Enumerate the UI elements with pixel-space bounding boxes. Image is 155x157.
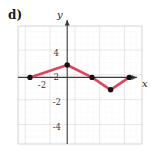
data-point bbox=[27, 75, 32, 80]
graph-figure: d) x y 4 bbox=[0, 0, 155, 157]
data-point bbox=[108, 87, 113, 92]
y-tick-label-neg2: -2 bbox=[53, 97, 61, 107]
data-point bbox=[127, 75, 132, 80]
y-axis-label: y bbox=[56, 9, 63, 20]
coordinate-plane: x y 4 2 -2 -4 -2 bbox=[0, 0, 155, 157]
y-tick-label-4: 4 bbox=[54, 48, 59, 58]
y-tick-label-2: 2 bbox=[54, 72, 59, 82]
data-point bbox=[89, 75, 94, 80]
y-tick-label-neg4: -4 bbox=[53, 122, 61, 132]
x-tick-label-neg2: -2 bbox=[38, 80, 46, 90]
grid bbox=[18, 26, 142, 144]
data-point bbox=[65, 62, 70, 67]
x-axis-label: x bbox=[142, 78, 148, 89]
